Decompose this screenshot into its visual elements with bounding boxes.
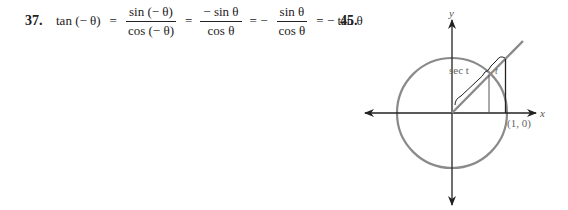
y-axis-label: y bbox=[448, 7, 454, 19]
tan-label: t bbox=[495, 65, 498, 76]
unit-circle-diagram: y x (1, 0) sec t t bbox=[0, 0, 568, 210]
point-label: (1, 0) bbox=[507, 117, 531, 130]
sec-label: sec t bbox=[449, 64, 469, 76]
terminal-ray bbox=[452, 41, 523, 113]
x-axis-label: x bbox=[539, 107, 545, 119]
